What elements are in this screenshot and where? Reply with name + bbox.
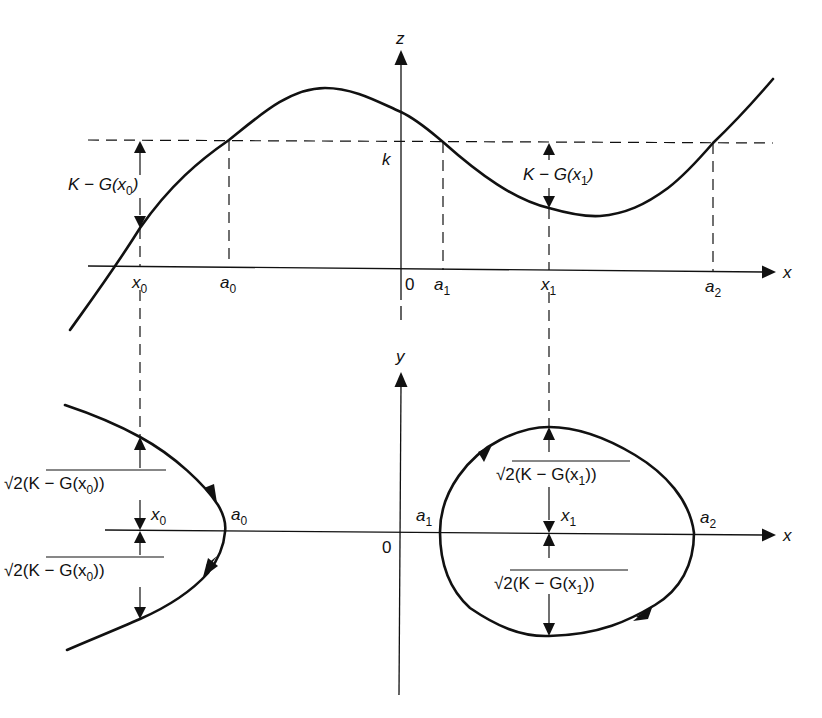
top-x-axis-arrow-icon: [762, 266, 776, 279]
bottom-panel: x y 0 √2(K − G(x0)) √2(K − G(x0)): [4, 347, 792, 695]
point-x0-label: x0: [150, 505, 167, 528]
point-a0-label: a0: [231, 505, 247, 528]
level-k-line: [88, 140, 773, 143]
open-orbit-arrow-upper-icon: [204, 484, 217, 503]
bottom-origin-label: 0: [382, 538, 391, 557]
top-x-axis: [88, 266, 766, 272]
z-axis-label: z: [395, 29, 405, 48]
bottom-x-axis-arrow-icon: [762, 529, 776, 542]
measure-x1-up-arrow-icon: [543, 143, 555, 155]
measure-y-x1-upper-down-arrow-icon: [543, 521, 555, 533]
z-axis-arrow-icon: [395, 50, 408, 65]
point-a1-label: a1: [416, 506, 432, 529]
phase-portrait-figure: x z 0 k K − G(x0) K − G(x1) x0 a0 a1: [0, 0, 822, 718]
top-x-axis-label: x: [782, 263, 792, 282]
measure-y-x1-upper-up-arrow-icon: [543, 427, 555, 440]
top-origin-label: 0: [405, 275, 414, 294]
closed-orbit-arrow-bottom-fill-icon: [633, 605, 653, 621]
open-orbit-left: [65, 405, 225, 650]
measure-y-x0-upper-down-arrow-icon: [134, 518, 146, 530]
measure-sqrt-x1-lower-label: √2(K − G(x1)): [494, 574, 595, 597]
bottom-x-axis-label: x: [782, 526, 792, 545]
y-axis: [399, 385, 401, 695]
measure-sqrt-x0-upper-label: √2(K − G(x0)): [4, 474, 105, 497]
y-axis-arrow-icon: [395, 372, 408, 387]
bottom-x-axis: [105, 530, 766, 535]
measure-sqrt-x0-lower-label: √2(K − G(x0)): [4, 561, 105, 584]
measure-k-minus-g-x0-label: K − G(x0): [68, 175, 138, 198]
tick-x0-label: x0: [131, 273, 148, 296]
measure-sqrt-x1-upper-label: √2(K − G(x1)): [496, 465, 597, 488]
point-a2-label: a2: [700, 508, 716, 531]
measure-y-x0-lower-up-arrow-icon: [134, 531, 146, 543]
measure-y-x1-lower-up-arrow-icon: [543, 533, 555, 546]
potential-curve: [70, 79, 773, 330]
tick-a1-label: a1: [434, 275, 450, 298]
tick-a0-label: a0: [220, 273, 236, 296]
measure-k-minus-g-x1-label: K − G(x1): [523, 165, 593, 188]
point-x1-label: x1: [560, 506, 577, 529]
y-axis-label: y: [395, 347, 406, 366]
measure-y-x1-lower-down-arrow-icon: [543, 623, 555, 636]
tick-a2-label: a2: [705, 277, 721, 300]
closed-orbit-right: [440, 427, 694, 636]
top-panel: x z 0 k K − G(x0) K − G(x1) x0 a0 a1: [68, 29, 792, 330]
measure-x0-up-arrow-icon: [134, 141, 146, 153]
tick-x1-label: x1: [540, 275, 557, 298]
level-k-label: k: [382, 150, 392, 169]
